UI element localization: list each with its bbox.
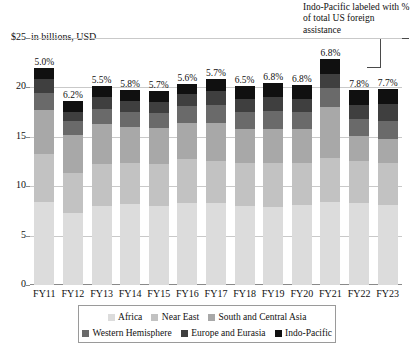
bar-segment-south-and-central-asia: [320, 107, 340, 157]
bar-segment-indo-pacific: [292, 85, 312, 99]
bar-fy15[interactable]: 5.7%: [149, 91, 169, 285]
bar-segment-western-hemisphere: [63, 121, 83, 135]
legend-item-indo-pacific[interactable]: Indo-Pacific: [275, 328, 332, 338]
bar-segment-africa: [206, 203, 226, 285]
bar-segment-south-and-central-asia: [177, 123, 197, 159]
bar-segment-south-and-central-asia: [92, 124, 112, 165]
data-label-fy12: 6.2%: [63, 90, 83, 100]
bar-segment-africa: [149, 206, 169, 285]
bar-segment-south-and-central-asia: [292, 129, 312, 163]
bar-fy17[interactable]: 5.7%: [206, 79, 226, 285]
bar-segment-africa: [349, 203, 369, 285]
data-label-fy22: 7.8%: [349, 79, 369, 89]
bar-fy19[interactable]: 6.8%: [263, 83, 283, 285]
bar-segment-western-hemisphere: [263, 111, 283, 129]
bar-segment-near-east: [34, 154, 54, 202]
bar-segment-indo-pacific: [34, 68, 54, 79]
y-tick-mark-5: [26, 236, 30, 237]
bar-fy20[interactable]: 6.8%: [292, 85, 312, 285]
bar-fy16[interactable]: 5.6%: [177, 84, 197, 286]
legend-swatch-icon: [275, 330, 282, 337]
bar-segment-western-hemisphere: [92, 109, 112, 124]
gridline-25: [30, 38, 402, 39]
bar-segment-near-east: [149, 164, 169, 206]
bar-segment-near-east: [120, 163, 140, 204]
bar-segment-europe-and-eurasia: [120, 101, 140, 112]
bar-fy18[interactable]: 6.5%: [235, 86, 255, 285]
bar-segment-europe-and-eurasia: [177, 94, 197, 106]
data-label-fy17: 5.7%: [206, 68, 226, 78]
legend-item-western-hemisphere[interactable]: Western Hemisphere: [82, 328, 172, 338]
legend-swatch-icon: [181, 330, 188, 337]
bar-fy23[interactable]: 7.7%: [378, 89, 398, 285]
bar-segment-europe-and-eurasia: [92, 97, 112, 109]
bar-segment-south-and-central-asia: [206, 123, 226, 161]
bar-segment-indo-pacific: [63, 101, 83, 112]
bar-segment-europe-and-eurasia: [63, 112, 83, 121]
legend-label: Indo-Pacific: [285, 328, 332, 338]
bar-segment-western-hemisphere: [149, 113, 169, 128]
bar-segment-near-east: [292, 163, 312, 205]
legend-label: Africa: [118, 312, 142, 322]
bar-segment-europe-and-eurasia: [292, 99, 312, 112]
legend-item-europe-and-eurasia[interactable]: Europe and Eurasia: [181, 328, 266, 338]
legend-swatch-icon: [208, 314, 215, 321]
x-axis-label-fy23: FY23: [368, 288, 408, 299]
data-label-fy14: 5.8%: [120, 79, 140, 89]
data-label-fy18: 6.5%: [235, 75, 255, 85]
bar-segment-africa: [292, 205, 312, 285]
bar-segment-near-east: [63, 173, 83, 213]
legend-label: South and Central Asia: [219, 312, 307, 322]
legend-item-near-east[interactable]: Near East: [151, 312, 199, 322]
bar-segment-indo-pacific: [177, 84, 197, 95]
chart-annotation: Indo-Pacific labeled with % of total US …: [303, 2, 411, 36]
chart-legend: AfricaNear EastSouth and Central AsiaWes…: [78, 305, 336, 343]
bar-fy11[interactable]: 5.0%: [34, 68, 54, 285]
bar-segment-near-east: [206, 161, 226, 203]
bar-segment-indo-pacific: [378, 89, 398, 104]
y-axis-label-20: 20: [0, 80, 26, 91]
data-label-fy15: 5.7%: [149, 80, 169, 90]
bar-segment-indo-pacific: [263, 83, 283, 97]
legend-label: Western Hemisphere: [93, 328, 172, 338]
bar-segment-near-east: [263, 163, 283, 206]
legend-item-africa[interactable]: Africa: [108, 312, 143, 322]
bar-segment-south-and-central-asia: [34, 110, 54, 153]
bar-segment-western-hemisphere: [235, 112, 255, 129]
bar-segment-western-hemisphere: [120, 112, 140, 127]
legend-item-south-and-central-asia[interactable]: South and Central Asia: [208, 312, 306, 322]
bar-segment-western-hemisphere: [292, 112, 312, 129]
y-tick-mark-10: [26, 186, 30, 187]
y-axis-label-25: $25: [0, 31, 26, 42]
data-label-fy21: 6.8%: [321, 48, 341, 58]
legend-row: AfricaNear EastSouth and Central Asia: [85, 309, 329, 325]
bar-segment-south-and-central-asia: [263, 129, 283, 164]
bar-fy13[interactable]: 5.5%: [92, 86, 112, 285]
data-label-fy13: 5.5%: [92, 75, 112, 85]
data-label-fy11: 5.0%: [34, 57, 54, 67]
bar-segment-africa: [34, 202, 54, 285]
bar-segment-indo-pacific: [149, 91, 169, 102]
bar-fy14[interactable]: 5.8%: [120, 90, 140, 285]
y-tick-mark-0: [26, 285, 30, 286]
bar-segment-western-hemisphere: [206, 105, 226, 123]
bar-fy21[interactable]: 6.8%: [320, 59, 340, 285]
legend-label: Near East: [162, 312, 199, 322]
bar-segment-near-east: [320, 158, 340, 202]
legend-row: Western HemisphereEurope and EurasiaIndo…: [85, 325, 329, 341]
bar-fy12[interactable]: 6.2%: [63, 101, 83, 285]
y-tick-mark-25: [26, 38, 30, 39]
bar-fy22[interactable]: 7.8%: [349, 90, 369, 285]
y-axis-label-10: 10: [0, 179, 26, 190]
data-label-fy19: 6.8%: [263, 72, 283, 82]
bar-segment-western-hemisphere: [177, 106, 197, 123]
y-tick-mark-20: [26, 87, 30, 88]
bar-segment-indo-pacific: [320, 59, 340, 74]
bar-segment-africa: [378, 205, 398, 285]
bar-segment-near-east: [92, 164, 112, 205]
bar-segment-western-hemisphere: [34, 93, 54, 110]
y-axis-label-0: 0: [0, 278, 26, 289]
bar-segment-africa: [63, 213, 83, 285]
bar-segment-europe-and-eurasia: [320, 74, 340, 89]
bar-segment-indo-pacific: [349, 90, 369, 105]
